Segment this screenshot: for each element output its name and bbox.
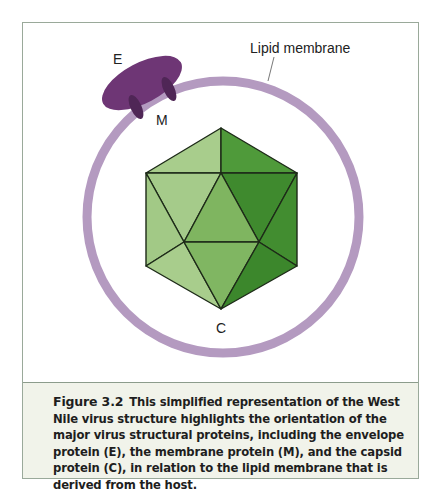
- lipid-membrane-label: Lipid membrane: [250, 40, 351, 56]
- caption-text: This simplified representation of the We…: [53, 395, 404, 492]
- capsid-icosahedron: [146, 128, 297, 309]
- lipid-membrane-leader-line: [268, 57, 274, 81]
- figure-number: Figure 3.2: [53, 394, 123, 409]
- figure-frame: Lipid membrane E M: [22, 22, 419, 479]
- membrane-protein-label: M: [156, 112, 168, 128]
- diagram-canvas: Lipid membrane E M: [23, 23, 418, 382]
- capsid-label: C: [216, 320, 226, 336]
- figure-caption: Figure 3.2This simplified representation…: [23, 382, 418, 478]
- virus-diagram: Lipid membrane E M: [23, 23, 418, 382]
- envelope-label: E: [113, 51, 122, 67]
